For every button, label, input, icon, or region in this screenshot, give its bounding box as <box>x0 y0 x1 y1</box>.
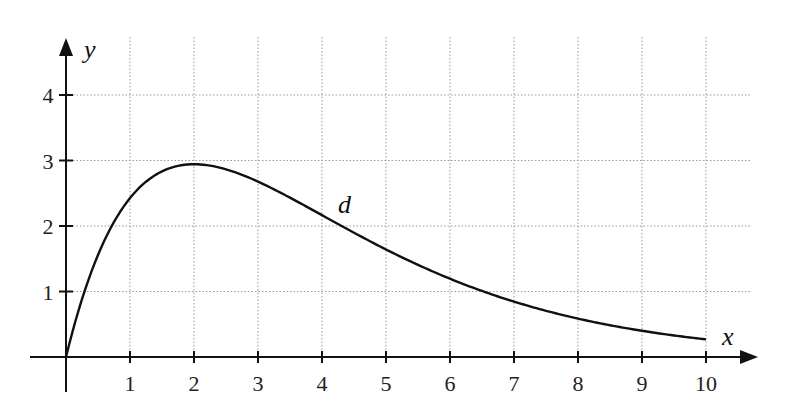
x-tick-label: 5 <box>381 371 392 396</box>
x-tick-label: 6 <box>445 371 456 396</box>
x-tick-label: 2 <box>189 371 200 396</box>
x-tick-label: 10 <box>695 371 717 396</box>
grid <box>66 37 750 357</box>
x-tick-label: 9 <box>637 371 648 396</box>
chart: 123456789101234 y x d <box>0 0 785 414</box>
y-tick-label: 1 <box>43 280 54 305</box>
x-axis-label: x <box>721 322 734 351</box>
ticks: 123456789101234 <box>43 83 718 396</box>
y-tick-label: 3 <box>43 149 54 174</box>
x-tick-label: 7 <box>509 371 520 396</box>
x-tick-label: 8 <box>573 371 584 396</box>
x-tick-label: 1 <box>125 371 136 396</box>
y-tick-label: 2 <box>43 214 54 239</box>
curve-label: d <box>338 190 352 219</box>
y-axis-arrow-icon <box>59 38 73 56</box>
axes <box>30 38 758 392</box>
x-tick-label: 4 <box>317 371 328 396</box>
y-axis-label: y <box>81 35 96 64</box>
x-tick-label: 3 <box>253 371 264 396</box>
y-tick-label: 4 <box>43 83 54 108</box>
x-axis-arrow-icon <box>740 350 758 364</box>
